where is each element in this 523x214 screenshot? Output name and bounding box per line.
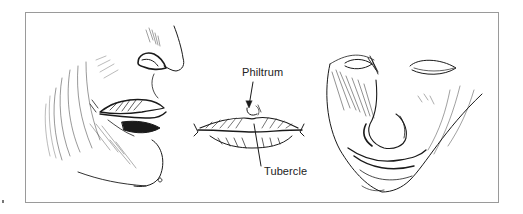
illustration-canvas (0, 0, 523, 214)
tubercle-label: Tubercle (264, 165, 307, 177)
tilted-face (327, 55, 482, 192)
profile-lower-face (45, 26, 184, 187)
frontal-lips (194, 82, 304, 166)
philtrum-label: Philtrum (242, 66, 283, 78)
